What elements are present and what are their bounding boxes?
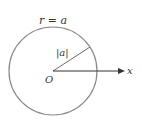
- arrowhead-icon: [118, 68, 125, 74]
- origin-label: O: [45, 74, 53, 85]
- equation-label: r = a: [39, 14, 67, 27]
- radius-label: |a|: [56, 47, 69, 59]
- polar-circle-diagram: r = a |a| O x: [0, 0, 142, 124]
- x-axis-label: x: [127, 65, 133, 76]
